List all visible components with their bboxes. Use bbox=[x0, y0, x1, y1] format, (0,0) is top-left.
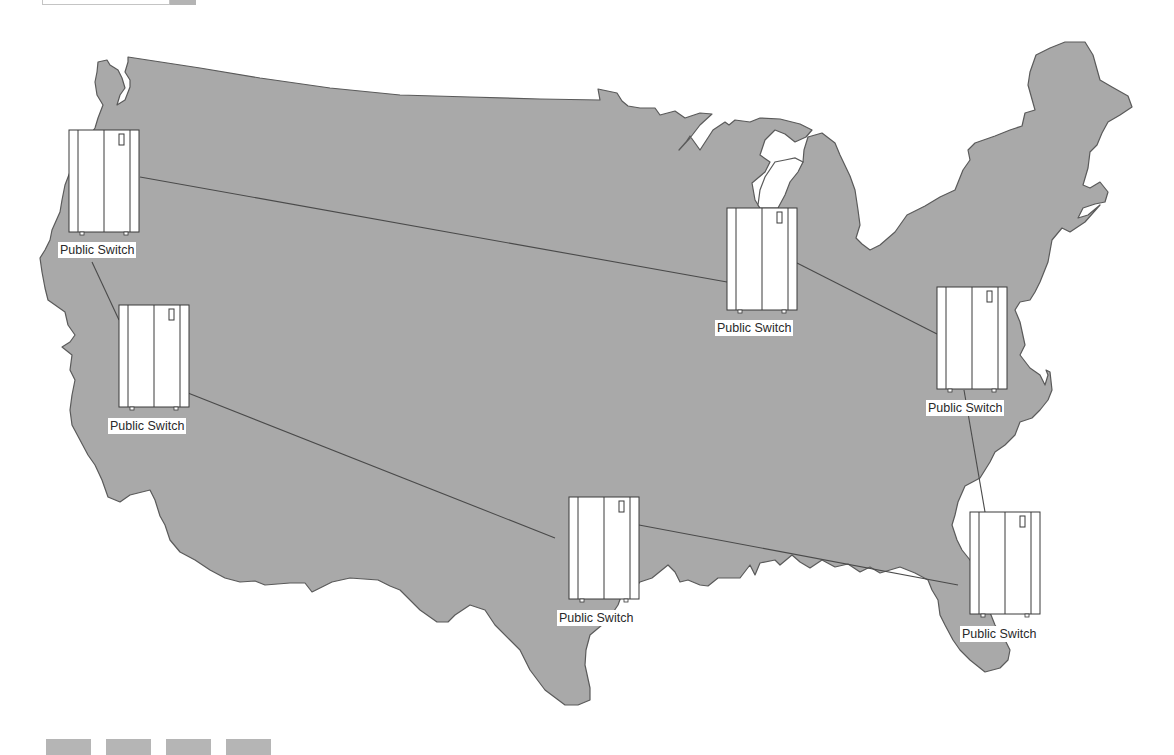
switch-icon[interactable] bbox=[119, 305, 189, 410]
toolbar-button-2[interactable] bbox=[106, 739, 151, 755]
switch-icon[interactable] bbox=[69, 130, 139, 235]
switch-label-midwest: Public Switch bbox=[715, 320, 793, 336]
switch-icon[interactable] bbox=[569, 497, 639, 602]
toolbar-button-1[interactable] bbox=[46, 739, 91, 755]
switch-label-florida: Public Switch bbox=[960, 626, 1038, 642]
switch-icon[interactable] bbox=[970, 512, 1040, 617]
switch-label-northwest: Public Switch bbox=[58, 242, 136, 258]
toolbar-button-4[interactable] bbox=[226, 739, 271, 755]
switch-icon[interactable] bbox=[937, 287, 1007, 392]
switch-label-california: Public Switch bbox=[108, 418, 186, 434]
switch-icon[interactable] bbox=[727, 208, 797, 313]
switch-label-texas: Public Switch bbox=[557, 610, 635, 626]
switch-label-virginia: Public Switch bbox=[926, 400, 1004, 416]
bottom-toolbar bbox=[46, 739, 271, 755]
toolbar-button-3[interactable] bbox=[166, 739, 211, 755]
